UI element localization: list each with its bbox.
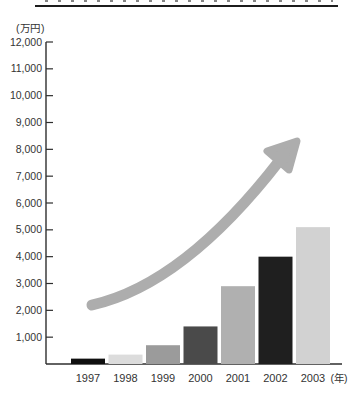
x-label-2001: 2001 — [226, 372, 250, 384]
bar-2001 — [221, 286, 255, 364]
y-tick-label: 1,000 — [16, 331, 42, 343]
bar-1997 — [71, 359, 105, 364]
y-tick-label: 9,000 — [16, 116, 42, 128]
bar-1999 — [146, 345, 180, 364]
bar-2003 — [296, 227, 330, 364]
x-label-2002: 2002 — [263, 372, 287, 384]
bar-chart: 1,0002,0003,0004,0005,0006,0007,0008,000… — [0, 0, 354, 393]
chart-figure: (万円) 1,0002,0003,0004,0005,0006,0007,000… — [0, 0, 354, 393]
y-tick-label: 12,000 — [10, 36, 42, 48]
x-label-2003: 2003 — [301, 372, 325, 384]
y-tick-label: 6,000 — [16, 197, 42, 209]
y-tick-label: 2,000 — [16, 304, 42, 316]
x-label-2000: 2000 — [188, 372, 212, 384]
bar-1998 — [109, 355, 143, 364]
bar-2002 — [259, 257, 293, 364]
x-label-1998: 1998 — [113, 372, 137, 384]
y-tick-label: 7,000 — [16, 170, 42, 182]
x-label-1999: 1999 — [151, 372, 175, 384]
y-tick-label: 11,000 — [11, 62, 42, 74]
x-axis-unit-label: (年) — [331, 372, 348, 384]
bar-2000 — [184, 326, 218, 364]
trend-arrow-shaft — [92, 160, 280, 305]
y-tick-label: 3,000 — [16, 277, 42, 289]
y-tick-label: 8,000 — [16, 143, 42, 155]
y-tick-label: 5,000 — [16, 223, 42, 235]
y-tick-label: 10,000 — [10, 89, 42, 101]
x-label-1997: 1997 — [76, 372, 100, 384]
y-tick-label: 4,000 — [16, 250, 42, 262]
